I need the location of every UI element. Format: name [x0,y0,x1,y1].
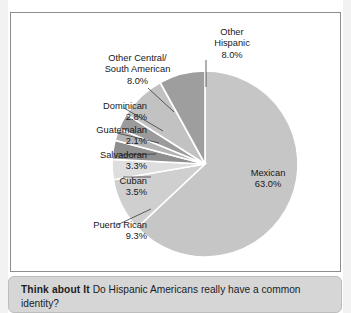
slice-label-guatemalan: Guatemalan 2.1% [47,125,147,148]
page-margin-right [343,0,351,313]
caption-text: Think about It Do Hispanic Americans rea… [21,283,331,310]
page-margin-left [0,0,8,313]
page-margin-bottom [0,272,8,313]
slice-label-cuban: Cuban 3.5% [61,176,147,199]
caption-lead-in: Think about It [21,284,90,295]
clipped-heading-row [0,0,351,9]
slice-label-dominican: Dominican 2.8% [57,101,147,124]
slice-label-other-hispanic: Other Hispanic 8.0% [199,27,265,61]
slice-label-mexican: Mexican 63.0% [232,168,304,191]
slice-label-salvadoran: Salvadoran 3.3% [51,150,147,173]
chart-frame: Other Hispanic 8.0% Other Central/ South… [10,12,341,272]
think-about-it-callout: Think about It Do Hispanic Americans rea… [8,276,342,313]
slice-label-puerto-rican: Puerto Rican 9.3% [41,220,147,243]
slice-label-other-central-south-american: Other Central/ South American 8.0% [85,53,190,87]
